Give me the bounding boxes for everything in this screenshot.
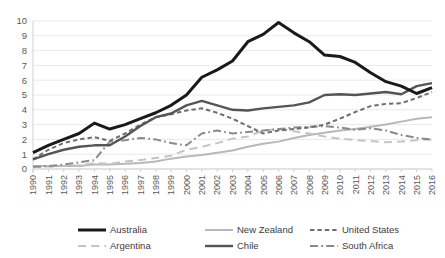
x-tick-label: 1999 [166,175,176,195]
x-tick-label: 2010 [335,175,345,195]
x-tick-label: 1993 [74,175,84,195]
x-tick-label: 2011 [351,175,361,194]
x-tick-label: 1994 [90,175,100,195]
legend-label-argentina: Argentina [110,240,151,251]
x-tick-label: 2008 [305,175,315,195]
x-tick-label: 1991 [44,175,54,195]
x-tick-label: 2014 [397,175,407,195]
x-axis-ticks: 1990199119921993199419951996199719981999… [28,169,437,195]
y-tick-label: 1 [22,149,27,160]
x-tick-label: 2000 [182,175,192,195]
y-tick-label: 8 [22,45,27,56]
x-tick-label: 1992 [59,175,69,195]
x-tick-label: 2004 [243,175,253,195]
y-tick-label: 6 [22,75,27,86]
legend-label-south-africa: South Africa [342,240,394,251]
legend-item-south-africa[interactable]: South Africa [310,240,394,251]
y-tick-label: 3 [22,119,27,130]
x-tick-label: 1990 [28,175,38,195]
legend-label-new-zealand: New Zealand [237,224,293,235]
y-tick-label: 5 [22,89,27,100]
x-tick-label: 2009 [320,175,330,195]
legend-item-united-states[interactable]: United States [310,224,399,235]
x-tick-label: 2003 [228,175,238,195]
y-tick-label: 9 [22,30,27,41]
x-tick-label: 2007 [289,175,299,195]
y-tick-label: 0 [22,163,27,174]
y-tick-label: 7 [22,60,27,71]
x-tick-label: 1995 [105,175,115,195]
y-tick-label: 10 [16,15,27,26]
legend-item-new-zealand[interactable]: New Zealand [205,224,293,235]
x-tick-label: 1997 [136,175,146,195]
legend-label-chile: Chile [237,240,259,251]
y-tick-label: 4 [22,104,27,115]
x-tick-label: 2006 [274,175,284,195]
legend-label-australia: Australia [110,224,148,235]
x-tick-label: 1998 [151,175,161,195]
legend-item-chile[interactable]: Chile [205,240,259,251]
x-tick-label: 2002 [212,175,222,195]
x-tick-label: 2016 [427,175,437,195]
gridlines [33,21,432,169]
chart-canvas: 0123456789101990199119921993199419951996… [0,0,445,258]
legend: AustraliaNew ZealandUnited StatesArgenti… [78,224,399,251]
legend-label-united-states: United States [342,224,399,235]
x-tick-label: 2005 [258,175,268,195]
x-tick-label: 2013 [381,175,391,195]
x-tick-label: 2001 [197,175,207,195]
line-chart: 0123456789101990199119921993199419951996… [0,0,445,258]
x-tick-label: 1996 [120,175,130,195]
legend-item-argentina[interactable]: Argentina [78,240,151,251]
y-tick-label: 2 [22,134,27,145]
x-tick-label: 2015 [412,175,422,195]
y-axis-ticks: 012345678910 [16,15,27,174]
legend-item-australia[interactable]: Australia [78,224,148,235]
x-tick-label: 2012 [366,175,376,195]
